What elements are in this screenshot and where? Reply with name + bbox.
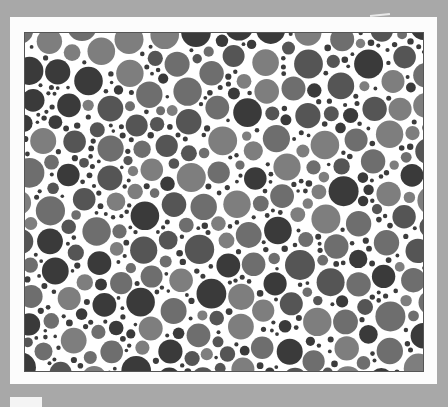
dot	[264, 217, 292, 245]
dot	[411, 323, 424, 349]
dot	[88, 154, 93, 159]
dot	[270, 184, 294, 208]
dot	[126, 288, 155, 317]
dot	[166, 95, 170, 99]
dot	[412, 120, 417, 125]
dot	[236, 249, 241, 254]
dot	[206, 230, 211, 235]
dot	[233, 98, 262, 127]
dot	[328, 336, 334, 342]
dot	[144, 109, 149, 114]
dot	[370, 141, 376, 147]
dot	[306, 160, 320, 174]
dot	[307, 83, 321, 97]
dot	[261, 327, 266, 332]
dot	[150, 72, 154, 76]
dot	[34, 253, 38, 257]
dot	[372, 204, 382, 214]
dot	[34, 195, 39, 200]
dot	[44, 155, 59, 170]
dot	[86, 114, 91, 119]
dot	[159, 231, 178, 250]
dot	[349, 250, 367, 268]
dot	[107, 192, 126, 211]
dot	[148, 132, 154, 138]
dot	[242, 42, 246, 46]
dot	[373, 358, 377, 362]
dot	[45, 59, 70, 84]
dot	[133, 141, 150, 158]
dot	[116, 60, 143, 87]
dot	[160, 285, 164, 289]
dot	[128, 166, 138, 176]
dot	[150, 117, 164, 131]
dot	[158, 368, 181, 372]
dot	[209, 311, 224, 326]
dot	[335, 123, 346, 134]
dot	[149, 45, 153, 49]
dot	[25, 136, 28, 142]
dot	[176, 133, 181, 138]
dot	[327, 99, 332, 104]
dot	[295, 33, 322, 46]
dot	[350, 241, 355, 246]
dot	[226, 81, 231, 86]
dot	[165, 52, 190, 77]
dot	[125, 101, 135, 111]
dot	[180, 259, 186, 265]
dot	[160, 255, 172, 267]
dot	[315, 234, 321, 240]
dot	[160, 177, 175, 192]
dot	[67, 33, 97, 41]
dot	[57, 164, 80, 187]
dot	[359, 317, 364, 322]
dot	[141, 266, 163, 288]
dot	[208, 161, 230, 183]
dot	[298, 283, 303, 288]
dot	[370, 351, 375, 356]
dot	[292, 137, 296, 141]
dot	[369, 261, 375, 267]
dot	[303, 308, 331, 336]
dot	[361, 149, 385, 173]
dot	[351, 52, 355, 56]
dot	[327, 55, 340, 68]
dot	[312, 184, 327, 199]
dot	[223, 45, 245, 67]
dot	[211, 216, 226, 231]
dot	[282, 106, 287, 111]
dot	[189, 317, 193, 321]
dot	[253, 196, 269, 212]
dot	[306, 281, 310, 285]
dot	[406, 75, 410, 79]
dot	[299, 130, 304, 135]
dot	[77, 274, 93, 290]
dot	[311, 205, 340, 234]
dot	[311, 131, 340, 160]
dot	[393, 46, 416, 69]
dot	[93, 293, 117, 317]
dot	[64, 44, 81, 61]
dot	[422, 122, 424, 133]
dot	[422, 50, 424, 54]
dot	[158, 339, 182, 363]
dot	[204, 125, 210, 131]
dot	[68, 245, 84, 261]
dot	[185, 293, 189, 297]
dot	[156, 135, 178, 157]
dot	[393, 289, 398, 294]
dot	[179, 218, 194, 233]
dot	[25, 191, 31, 215]
dot	[317, 255, 328, 266]
dot	[293, 243, 298, 248]
dot	[110, 242, 124, 256]
dot	[291, 182, 296, 187]
dot	[140, 52, 145, 57]
dot	[120, 132, 126, 138]
dot	[375, 301, 405, 331]
dot	[392, 205, 415, 228]
dot	[161, 225, 165, 229]
dot	[117, 296, 121, 300]
dot	[343, 108, 358, 123]
dot	[187, 323, 211, 347]
